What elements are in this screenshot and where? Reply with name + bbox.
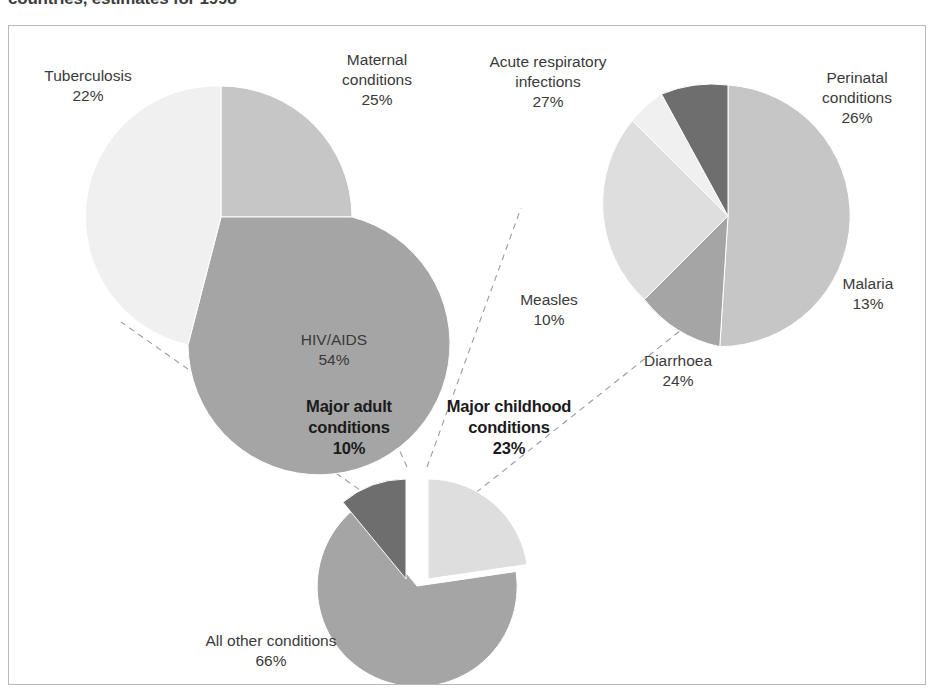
label-major-adult-conditions: Major adult conditions 10% (279, 396, 419, 459)
label-perinatal-conditions: Perinatal conditions 26% (795, 68, 919, 127)
pie-chart-graphic (9, 26, 925, 684)
label-major-childhood-conditions: Major childhood conditions 23% (423, 396, 595, 459)
figure-caption-clip: countries, estimates for 1998 (0, 0, 935, 20)
label-acute-respiratory-infections: Acute respiratory infections 27% (466, 52, 630, 111)
chart-frame: Tuberculosis 22% Maternal conditions 25%… (8, 25, 926, 685)
label-malaria: Malaria 13% (821, 274, 915, 314)
label-all-other-conditions: All other conditions 66% (185, 631, 357, 671)
label-measles: Measles 10% (501, 290, 597, 330)
label-maternal-conditions: Maternal conditions 25% (314, 50, 440, 109)
label-hiv-aids: HIV/AIDS 54% (274, 330, 394, 370)
chart-page: countries, estimates for 1998 (0, 0, 935, 688)
figure-caption: countries, estimates for 1998 (8, 0, 237, 9)
label-tuberculosis: Tuberculosis 22% (23, 66, 153, 106)
slice-major-childhood-conditions[interactable] (428, 479, 527, 579)
label-diarrhoea: Diarrhoea 24% (619, 351, 737, 391)
